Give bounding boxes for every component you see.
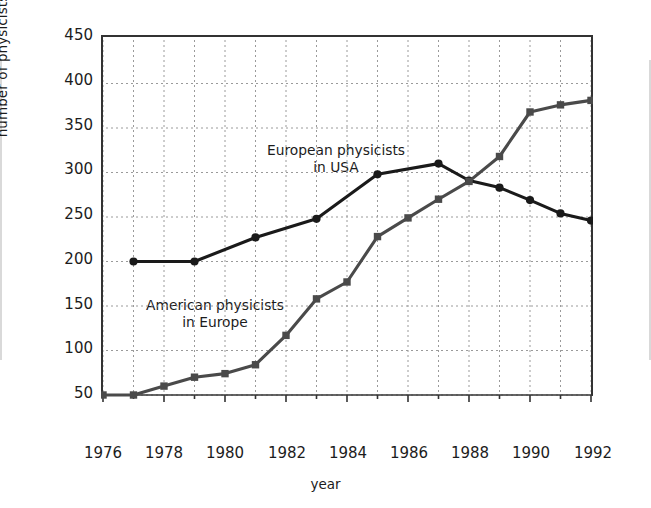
x-tick-1982: 1982: [257, 444, 317, 462]
y-tick-350: 350: [47, 116, 93, 134]
y-tick-400: 400: [47, 71, 93, 89]
data-point-2-1982: [282, 332, 289, 339]
y-tick-150: 150: [47, 295, 93, 313]
data-point-2-1987: [435, 196, 442, 203]
data-point-1-1991: [556, 209, 564, 217]
plot-canvas: [101, 35, 593, 437]
y-tick-300: 300: [47, 160, 93, 178]
data-point-2-1976: [101, 391, 107, 398]
data-point-2-1988: [465, 178, 472, 185]
x-tick-1992: 1992: [563, 444, 623, 462]
data-point-2-1980: [221, 370, 228, 377]
data-point-1-1979: [190, 257, 198, 265]
data-point-1-1977: [129, 257, 137, 265]
x-tick-1986: 1986: [379, 444, 439, 462]
series-2: [101, 97, 593, 399]
data-point-2-1990: [526, 108, 533, 115]
y-tick-50: 50: [47, 384, 93, 402]
y-tick-100: 100: [47, 339, 93, 357]
y-tick-250: 250: [47, 205, 93, 223]
data-point-2-1991: [557, 101, 564, 108]
plot-area: [101, 35, 593, 437]
y-tick-200: 200: [47, 250, 93, 268]
data-point-2-1977: [130, 391, 137, 398]
x-tick-1980: 1980: [195, 444, 255, 462]
data-point-2-1984: [343, 278, 350, 285]
data-point-1-1985: [373, 170, 381, 178]
data-point-2-1981: [252, 361, 259, 368]
y-tick-450: 450: [47, 26, 93, 44]
data-point-1-1983: [312, 215, 320, 223]
data-point-1-1987: [434, 160, 442, 168]
data-point-1-1990: [526, 196, 534, 204]
x-tick-1990: 1990: [501, 444, 561, 462]
x-tick-1976: 1976: [73, 444, 133, 462]
x-tick-1988: 1988: [440, 444, 500, 462]
data-point-2-1989: [496, 153, 503, 160]
data-point-2-1979: [191, 374, 198, 381]
series-1: [129, 160, 593, 266]
data-point-2-1985: [374, 233, 381, 240]
data-point-2-1983: [313, 295, 320, 302]
data-point-2-1986: [404, 214, 411, 221]
series-line-1: [134, 164, 592, 262]
data-point-1-1992: [587, 216, 593, 224]
chart-figure: 450 400 350 300 250 200 150 100 50 1976 …: [0, 0, 651, 508]
y-axis-label: number of physicists: [0, 0, 10, 176]
data-point-1-1981: [251, 233, 259, 241]
x-tick-1984: 1984: [318, 444, 378, 462]
x-tick-1978: 1978: [134, 444, 194, 462]
x-axis-label: year: [0, 476, 651, 492]
data-point-2-1992: [587, 97, 593, 104]
data-point-2-1978: [160, 382, 167, 389]
data-point-1-1989: [495, 184, 503, 192]
